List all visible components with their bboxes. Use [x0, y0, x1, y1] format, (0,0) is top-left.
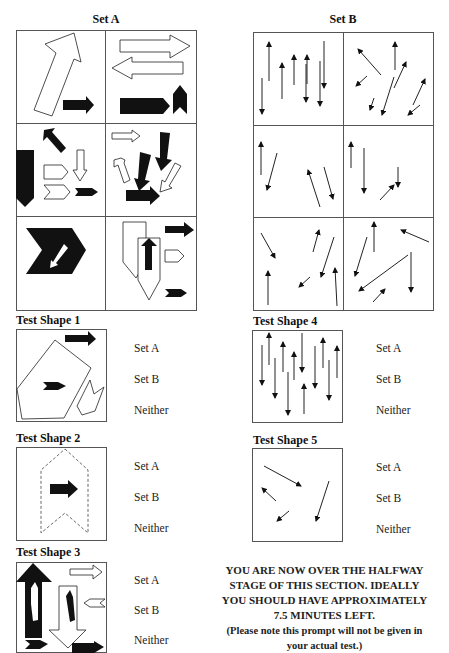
notice-line-1: YOU ARE NOW OVER THE HALFWAY — [200, 563, 449, 578]
notice-note-line-2: your actual test.) — [200, 638, 449, 653]
test-shape-5-option-set-b[interactable]: Set B — [376, 492, 401, 504]
halfway-notice: YOU ARE NOW OVER THE HALFWAY STAGE OF TH… — [200, 563, 449, 653]
notice-note-line-1: (Please note this prompt will not be giv… — [200, 623, 449, 638]
notice-line-2: STAGE OF THIS SECTION. IDEALLY — [200, 578, 449, 593]
notice-line-3: YOU SHOULD HAVE APPROXIMATELY — [200, 593, 449, 608]
test-shape-5-option-neither[interactable]: Neither — [376, 523, 410, 535]
test-shape-5-option-set-a[interactable]: Set A — [376, 461, 401, 473]
notice-line-4: 7.5 MINUTES LEFT. — [200, 608, 449, 623]
